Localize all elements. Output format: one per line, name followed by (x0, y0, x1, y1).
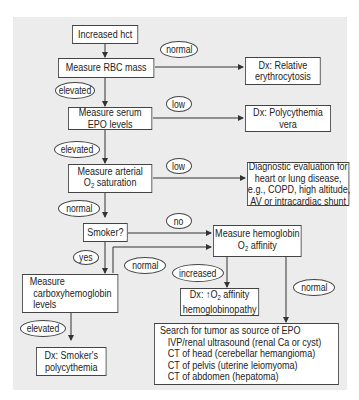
edge-label-o2-low: low (166, 158, 192, 174)
edge-label-o2-normal: normal (58, 200, 100, 217)
edge-label-rbc-normal: normal (160, 41, 198, 58)
node-increased-hct: Increased hct (72, 25, 138, 44)
node-dx-smokers-polycythemia: Dx: Smoker's polycythemia (36, 347, 107, 376)
edge-label-affinity-increased: increased (172, 264, 224, 282)
node-measure-carboxyhemoglobin: Measure carboxyhemoglobin levels (22, 274, 118, 313)
node-diagnostic-evaluation: Diagnostic evaluation for heart or lung … (247, 162, 349, 206)
node-dx-polycythemia-vera: Dx: Polycythemia vera (245, 105, 331, 132)
node-measure-serum-epo: Measure serum EPO levels (68, 107, 152, 130)
node-smoker: Smoker? (83, 223, 128, 242)
edge-label-epo-elevated: elevated (54, 141, 100, 158)
edge-label-epo-low: low (166, 96, 192, 112)
node-search-tumor: Search for tumor as source of EPO IVP/re… (154, 323, 339, 385)
node-dx-relative-erythrocytosis: Dx: Relative erythrocytosis (245, 57, 321, 85)
edge-label-affinity-normal: normal (293, 279, 335, 296)
edge-label-smoker-no: no (166, 213, 192, 229)
edge-label-smoker-yes: yes (73, 250, 99, 265)
edge-label-rbc-elevated: elevated (55, 82, 95, 99)
node-dx-hb-affinity-hemoglobinopathy: Dx: ↑O2 affinity hemoglobinopathy (180, 288, 259, 316)
edge-label-cohb-elevated: elevated (20, 320, 66, 337)
node-measure-rbc-mass: Measure RBC mass (58, 58, 154, 78)
node-measure-hb-affinity: Measure hemoglobin O2 affinity (213, 225, 302, 257)
node-measure-arterial-o2: Measure arterial O2 saturation (68, 164, 152, 193)
edge-label-cohb-normal: normal (124, 257, 166, 274)
